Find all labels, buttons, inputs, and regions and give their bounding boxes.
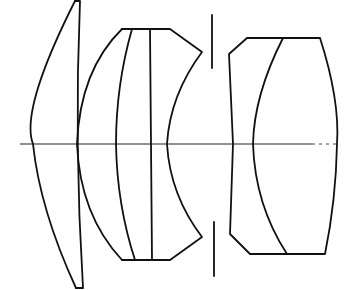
cemented-lens-group-3 [229, 38, 337, 254]
lens-diagram [0, 0, 350, 290]
aperture-stop [212, 15, 214, 276]
